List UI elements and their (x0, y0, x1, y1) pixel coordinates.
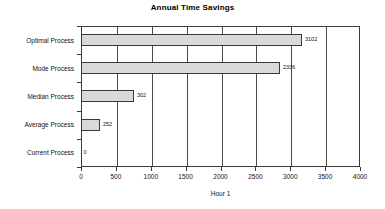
x-axis-tick-label: 2000 (213, 173, 227, 180)
x-axis-tick (81, 167, 82, 171)
x-axis-tick (221, 167, 222, 171)
y-axis-tick (77, 54, 81, 55)
bar-optimal-process[interactable] (81, 34, 302, 46)
y-axis-tick (77, 111, 81, 112)
x-axis-tick (186, 167, 187, 171)
y-axis-tick (77, 139, 81, 140)
bar-value-optimal-process: 3102 (305, 37, 317, 43)
bar-value-median-process: 302 (137, 94, 146, 100)
bar-median-process[interactable] (81, 90, 134, 102)
x-axis-tick (290, 167, 291, 171)
x-axis-tick-label: 3500 (318, 173, 332, 180)
x-axis-tick (325, 167, 326, 171)
x-axis-tick (360, 167, 361, 171)
chart-title: Annual Time Savings (0, 3, 385, 12)
bar-chart: Annual Time Savings 3102 2336 302 252 0 (0, 0, 385, 209)
x-axis-tick-label: 1500 (178, 173, 192, 180)
x-axis-tick-label: 500 (110, 173, 121, 180)
table-row: 302 (81, 82, 360, 110)
x-axis-tick (255, 167, 256, 171)
x-axis-tick-label: 0 (79, 173, 83, 180)
y-axis-label-mode-process: Mode Process (32, 54, 74, 82)
y-axis-labels: Optimal Process Mode Process Median Proc… (0, 26, 78, 167)
y-axis-tick (77, 82, 81, 83)
y-axis-label-median-process: Median Process (27, 82, 74, 110)
y-axis-tick (77, 26, 81, 27)
table-row: 3102 (81, 26, 360, 54)
x-axis-tick-label: 1000 (144, 173, 158, 180)
bar-value-current-process: 0 (84, 150, 87, 156)
x-axis-tick-label: 2500 (248, 173, 262, 180)
bar-value-mode-process: 2336 (283, 66, 295, 72)
x-axis-tick-label: 4000 (353, 173, 367, 180)
y-axis-label-current-process: Current Process (27, 139, 74, 167)
y-axis-label-average-process: Average Process (25, 111, 74, 139)
x-axis-tick-label: 3000 (283, 173, 297, 180)
x-axis-title: Hour 1 (81, 190, 360, 197)
x-axis-tick (151, 167, 152, 171)
table-row: 2336 (81, 54, 360, 82)
bar-average-process[interactable] (81, 119, 100, 131)
bars-layer: 3102 2336 302 252 0 (81, 26, 360, 167)
bar-mode-process[interactable] (81, 62, 280, 74)
bar-value-average-process: 252 (103, 122, 112, 128)
x-axis-tick (116, 167, 117, 171)
y-axis-label-optimal-process: Optimal Process (26, 26, 74, 54)
table-row: 252 (81, 111, 360, 139)
table-row: 0 (81, 139, 360, 167)
